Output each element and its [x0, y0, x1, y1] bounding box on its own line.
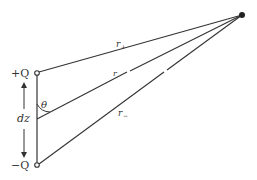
r-center-line-a	[37, 72, 127, 119]
plus-charge-label: +Q	[11, 67, 29, 80]
theta-label: θ	[41, 99, 47, 110]
dipole-diagram: +Q −Q dz θ r + r r −	[0, 0, 257, 180]
r-center-line-b	[130, 15, 242, 71]
field-point-dot	[239, 12, 245, 18]
r-plus-line	[39, 15, 242, 72]
r-plus-subscript: +	[121, 43, 126, 50]
minus-charge-label: −Q	[11, 159, 29, 172]
plus-charge-marker	[35, 71, 40, 76]
dz-label: dz	[17, 112, 30, 125]
r-minus-line-b	[167, 15, 242, 70]
minus-charge-marker	[35, 163, 40, 168]
r-minus-subscript: −	[123, 112, 128, 119]
arrow-up-icon	[21, 82, 27, 88]
arrow-down-icon	[21, 152, 27, 158]
